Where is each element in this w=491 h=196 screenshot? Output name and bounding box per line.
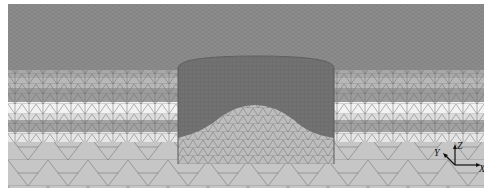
x-axis-label: X [478,163,484,174]
mesh-canvas: Z Y X [8,4,484,188]
mesh-figure: Z Y X [8,4,484,188]
cylindrical-pit [178,56,334,164]
z-axis-label: Z [457,140,463,151]
